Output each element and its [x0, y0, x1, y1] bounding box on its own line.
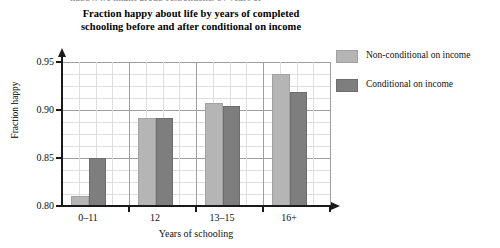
gridline-minor-vertical	[179, 62, 180, 206]
legend-swatch-non-conditional	[336, 50, 358, 63]
y-axis-labels: 0.800.850.900.95	[0, 0, 54, 248]
bar-chart-figure: happy, we might group respondents by yea…	[0, 0, 500, 248]
bar-non-conditional-1	[138, 118, 156, 206]
chart-title-line-2: schooling before and after conditional o…	[56, 20, 326, 33]
legend: Non-conditional on income Conditional on…	[336, 49, 498, 107]
y-axis-line	[61, 56, 63, 207]
legend-swatch-conditional	[336, 79, 358, 92]
bar-non-conditional-2	[205, 103, 223, 206]
x-axis-category-label-2: 13–15	[210, 212, 235, 223]
legend-item-non-conditional: Non-conditional on income	[336, 49, 498, 65]
chart-title: Fraction happy about life by years of co…	[56, 7, 326, 33]
x-axis-category-label-0: 0–11	[78, 212, 98, 223]
x-axis-line	[62, 205, 333, 207]
bar-conditional-3	[290, 92, 308, 206]
plot-area	[62, 62, 330, 206]
gridline-major-vertical	[129, 62, 130, 206]
y-axis-title: Fraction happy	[10, 55, 20, 165]
gridline-minor-vertical	[313, 62, 314, 206]
gridline-major-vertical	[330, 62, 331, 206]
y-axis-tick	[56, 61, 62, 62]
x-axis-arrow-icon	[331, 202, 340, 210]
x-axis-category-label-3: 16+	[281, 212, 297, 223]
x-axis-tick	[195, 206, 196, 212]
x-axis-tick	[128, 206, 129, 212]
bar-conditional-0	[89, 158, 107, 206]
gridline-minor-vertical	[112, 62, 113, 206]
gridline-minor-vertical	[79, 62, 80, 206]
y-axis-arrow-icon	[58, 48, 66, 57]
gridline-minor-vertical	[246, 62, 247, 206]
y-axis-tick	[56, 157, 62, 158]
legend-item-conditional: Conditional on income	[336, 78, 498, 94]
gridline-major-vertical	[196, 62, 197, 206]
gridline-major-vertical	[263, 62, 264, 206]
x-axis-tick	[329, 206, 330, 212]
bar-non-conditional-3	[272, 74, 290, 206]
bar-conditional-2	[223, 106, 241, 206]
chart-title-line-1: Fraction happy about life by years of co…	[83, 8, 300, 19]
legend-label-non-conditional: Non-conditional on income	[366, 50, 470, 60]
x-axis-category-label-1: 12	[150, 212, 160, 223]
cropped-text-above-figure: happy, we might group respondents by yea…	[70, 0, 370, 1]
legend-label-conditional: Conditional on income	[366, 79, 453, 89]
y-axis-tick	[56, 109, 62, 110]
x-axis-title: Years of schooling	[62, 228, 330, 239]
bar-conditional-1	[156, 118, 174, 206]
x-axis-tick	[262, 206, 263, 212]
y-axis-tick	[56, 205, 62, 206]
y-axis-tick-label: 0.80	[10, 200, 54, 211]
